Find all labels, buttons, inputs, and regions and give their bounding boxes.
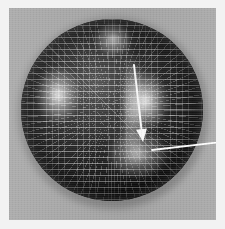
wireframe-sphere (21, 19, 203, 201)
figure-canvas (0, 0, 225, 229)
render-panel (9, 8, 216, 220)
sphere-rim-light (21, 19, 203, 201)
